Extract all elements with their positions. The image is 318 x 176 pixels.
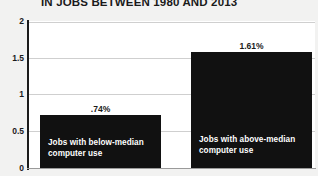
bar-below-median[interactable]: Jobs with below-median computer use bbox=[40, 115, 161, 169]
y-tick-0-5: 0.5 bbox=[2, 127, 24, 136]
bar-above-median[interactable]: Jobs with above-median computer use bbox=[191, 52, 312, 169]
chart-title: IN JOBS BETWEEN 1980 AND 2013 bbox=[41, 0, 311, 10]
y-tick-1-5: 1.5 bbox=[2, 54, 24, 63]
bar-label-below-median-line1: Jobs with below-median bbox=[48, 138, 144, 147]
y-axis-line bbox=[27, 20, 29, 170]
bar-label-below-median-line2: computer use bbox=[48, 149, 102, 158]
bar-label-above-median-line2: computer use bbox=[199, 146, 253, 155]
bar-value-above-median: 1.61% bbox=[191, 41, 312, 51]
bar-chart-figure: IN JOBS BETWEEN 1980 AND 2013 Jobs with … bbox=[0, 0, 318, 176]
bar-value-below-median: .74% bbox=[40, 104, 161, 114]
y-tick-0: 0 bbox=[2, 164, 24, 173]
gridline-2 bbox=[27, 22, 315, 23]
bar-label-above-median-line1: Jobs with above-median bbox=[199, 135, 295, 144]
bar-label-above-median: Jobs with above-median computer use bbox=[199, 134, 303, 156]
x-axis-line bbox=[27, 168, 316, 169]
bar-label-below-median: Jobs with below-median computer use bbox=[48, 137, 152, 159]
y-tick-2: 2 bbox=[2, 17, 24, 26]
y-axis-ticks: 2 1.5 1 0.5 0 bbox=[0, 0, 24, 176]
y-tick-1: 1 bbox=[2, 90, 24, 99]
